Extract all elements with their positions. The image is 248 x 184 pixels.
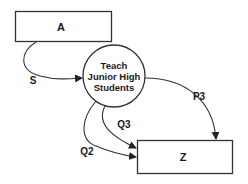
edge-p3: P3 (145, 78, 216, 139)
edge-q3-label: Q3 (117, 119, 131, 130)
process-label-line-2: Junior High (88, 71, 141, 82)
process-label-line-1: Teach (101, 60, 128, 71)
node-z: Z (138, 141, 233, 174)
edge-q2-label: Q2 (80, 146, 94, 157)
node-process: Teach Junior High Students (83, 45, 145, 107)
diagram-canvas: A S Teach Junior High Students P3 Q3 Q2 … (0, 0, 248, 184)
node-a-label: A (57, 21, 65, 33)
node-z-label: Z (180, 151, 187, 163)
process-label-line-3: Students (94, 82, 135, 93)
edge-q3: Q3 (102, 106, 136, 148)
edge-s-label: S (30, 75, 37, 86)
edge-p3-label: P3 (193, 91, 206, 102)
edge-s: S (24, 42, 82, 86)
node-a: A (16, 12, 112, 42)
